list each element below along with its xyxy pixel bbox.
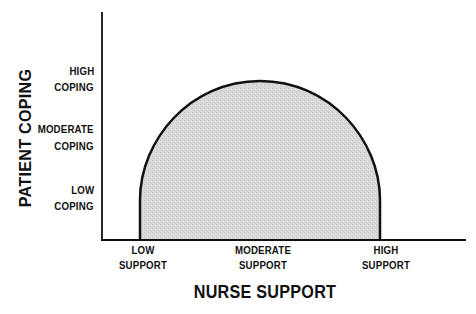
coping-curve-area bbox=[140, 81, 380, 240]
y-tick-moderate-coping-2: COPING bbox=[55, 136, 94, 156]
x-tick-line1: MODERATE bbox=[210, 243, 316, 258]
x-tick-line1: LOW bbox=[90, 243, 196, 258]
x-tick-line2: SUPPORT bbox=[90, 258, 196, 273]
x-tick-line2: SUPPORT bbox=[333, 258, 439, 273]
x-tick-line1: HIGH bbox=[333, 243, 439, 258]
x-tick-low-support: LOW SUPPORT bbox=[90, 243, 196, 273]
y-axis-title-text: PATIENT COPING bbox=[17, 69, 36, 207]
y-tick-line2: COPING bbox=[55, 136, 94, 156]
y-tick-high-coping-2: COPING bbox=[55, 77, 94, 97]
x-tick-line2: SUPPORT bbox=[210, 258, 316, 273]
y-tick-low-coping-2: COPING bbox=[55, 196, 94, 216]
y-tick-line2: COPING bbox=[55, 196, 94, 216]
y-tick-line2: COPING bbox=[55, 77, 94, 97]
x-axis-title: NURSE SUPPORT bbox=[167, 281, 363, 303]
x-tick-moderate-support: MODERATE SUPPORT bbox=[210, 243, 316, 273]
x-tick-high-support: HIGH SUPPORT bbox=[333, 243, 439, 273]
